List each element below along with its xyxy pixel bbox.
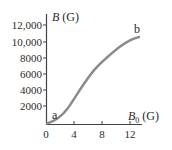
y-tick-labels: 2000 4000 6000 8000 10,000 12,000	[12, 19, 43, 112]
y-tick-label: 4000	[20, 84, 43, 96]
x-tick-label: 8	[99, 128, 105, 140]
point-label-b: b	[134, 22, 140, 36]
data-curve	[47, 37, 139, 124]
x-tick-label: 0	[43, 128, 49, 140]
y-tick-label: 6000	[20, 68, 43, 80]
chart: 2000 4000 6000 8000 10,000 12,000 0 4 8 …	[0, 0, 172, 150]
y-tick-label: 10,000	[12, 36, 43, 48]
y-axis-label: B (G)	[52, 10, 79, 24]
x-tick-labels: 0 4 8 12	[43, 128, 135, 140]
y-tick-label: 2000	[20, 100, 43, 112]
x-tick-label: 4	[71, 128, 77, 140]
y-tick-label: 12,000	[12, 19, 43, 31]
x-axis-label: B0 (G)	[128, 109, 159, 125]
point-label-a: a	[52, 108, 58, 122]
x-tick-label: 12	[125, 128, 136, 140]
y-tick-label: 8000	[20, 52, 43, 64]
